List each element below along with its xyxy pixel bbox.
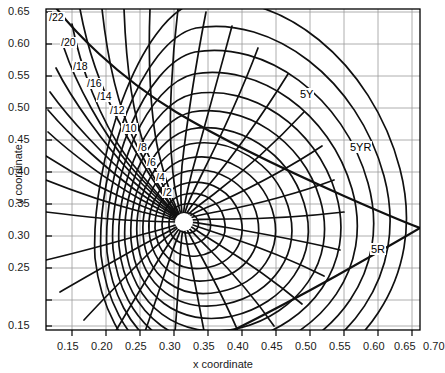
chroma-label-2: /2 xyxy=(162,187,173,198)
chroma-label-18: /18 xyxy=(72,61,89,72)
chroma-label-8: /8 xyxy=(137,142,148,153)
hue-label-5y: 5Y xyxy=(299,88,314,100)
hue-label-5r: 5R xyxy=(370,243,386,255)
x-tick-label: 0.15 xyxy=(57,340,79,352)
x-tick-label: 0.55 xyxy=(329,340,351,352)
x-tick-label: 0.25 xyxy=(125,340,147,352)
y-tick-label: 0.15 xyxy=(8,319,30,331)
chroma-label-14: /14 xyxy=(96,91,113,102)
x-tick-label: 0.20 xyxy=(91,340,113,352)
x-tick-label: 0.30 xyxy=(159,340,181,352)
x-tick-label: 0.65 xyxy=(394,340,416,352)
chroma-label-6: /6 xyxy=(146,157,157,168)
chroma-label-12: /12 xyxy=(109,105,126,116)
x-tick-label: 0.50 xyxy=(295,340,317,352)
y-tick-label: 0.55 xyxy=(8,69,30,81)
y-tick-label: 0.25 xyxy=(8,261,30,273)
x-tick-label: 0.45 xyxy=(261,340,283,352)
y-tick-label: 0.65 xyxy=(8,5,30,17)
y-tick-label: 0.60 xyxy=(8,37,30,49)
x-axis-title: x coordinate xyxy=(193,358,253,370)
chroma-label-4: /4 xyxy=(155,172,166,183)
chroma-label-22: /22 xyxy=(48,12,65,23)
neutral-point-marker xyxy=(175,213,193,231)
x-tick-label: 0.35 xyxy=(193,340,215,352)
y-tick-label: 0.30 xyxy=(8,229,30,241)
y-axis-title: y coordinate xyxy=(12,144,24,204)
x-tick-label: 0.70 xyxy=(423,340,445,352)
x-tick-label: 0.60 xyxy=(363,340,385,352)
chroma-label-10: /10 xyxy=(121,123,138,134)
hue-label-5yr: 5YR xyxy=(349,141,372,153)
y-tick-label: 0.50 xyxy=(8,101,30,113)
chroma-label-16: /16 xyxy=(86,78,103,89)
x-tick-label: 0.40 xyxy=(227,340,249,352)
chroma-label-20: /20 xyxy=(60,37,77,48)
